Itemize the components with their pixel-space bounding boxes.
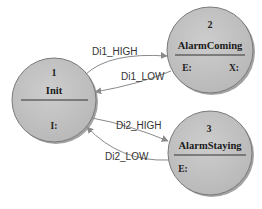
transition-label: Di1_LOW [121,71,165,82]
transition-di1-low[interactable]: Di1_LOW [95,71,171,92]
state-number: 2 [208,19,213,30]
state-action-entry: E: [178,164,188,174]
state-alarmstaying[interactable]: 3 AlarmStaying E: [168,111,254,197]
state-action-exit: X: [229,63,239,73]
transition-label: Di1_HIGH [92,46,138,57]
state-action-in: I: [51,121,58,131]
transition-di2-low[interactable]: Di2_LOW [87,127,168,162]
state-number: 1 [52,67,57,78]
state-diagram: Di1_HIGH Di1_LOW Di2_HIGH Di2_LOW 1 Init… [0,0,262,209]
transition-label: Di2_LOW [105,151,149,162]
transition-di2-high[interactable]: Di2_HIGH [92,118,168,141]
state-init[interactable]: 1 Init I: [12,58,98,144]
state-name: AlarmStaying [179,140,243,151]
state-name: AlarmComing [178,40,243,51]
state-number: 3 [207,123,212,134]
transition-di1-high[interactable]: Di1_HIGH [86,46,167,74]
state-alarmcoming[interactable]: 2 AlarmComing E: X: [167,7,255,95]
state-name: Init [46,85,63,96]
state-action-entry: E: [182,63,192,73]
transition-label: Di2_HIGH [116,120,162,131]
